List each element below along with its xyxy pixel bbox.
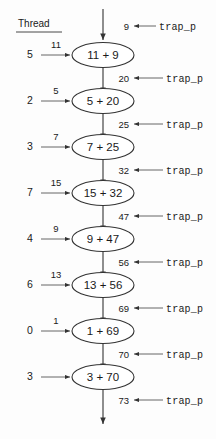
thread-id: 2 [27, 94, 33, 106]
thread-id: 5 [27, 48, 33, 60]
thread-input-value: 15 [51, 177, 62, 188]
scan-node-label: 9 + 47 [87, 233, 119, 245]
trap-label: trap_p [166, 120, 203, 131]
thread-column-header: Thread [18, 18, 50, 29]
thread-input-value: 9 [53, 223, 58, 234]
thread-input-value: 11 [51, 39, 61, 50]
node-output-value: 69 [118, 303, 129, 314]
node-output-value: 73 [118, 395, 129, 406]
trap-label: trap_p [166, 258, 203, 269]
thread-id: 3 [27, 370, 33, 382]
trap-label: trap_p [166, 396, 203, 407]
node-output-value: 70 [118, 349, 129, 360]
thread-id: 3 [27, 140, 33, 152]
trap-label: trap_p [166, 166, 203, 177]
pipeline-row: 0 1 1 + 69 70 trap_p [27, 315, 203, 370]
trap-label: trap_p [166, 212, 203, 223]
thread-id: 0 [27, 324, 33, 336]
trap-label: trap_p [166, 74, 203, 85]
thread-input-value: 13 [51, 269, 62, 280]
thread-input-value: 1 [53, 315, 58, 326]
scan-node-label: 11 + 9 [87, 49, 118, 61]
scan-node-label: 7 + 25 [87, 141, 119, 153]
node-output-value: 32 [118, 165, 129, 176]
scan-node-label: 5 + 20 [87, 95, 119, 107]
thread-input-value: 7 [53, 131, 58, 142]
scan-node-label: 1 + 69 [87, 325, 119, 337]
trap-label: trap_p [166, 350, 203, 361]
scan-node-label: 15 + 32 [84, 187, 123, 199]
top-inflow-trap-label: trap_p [159, 22, 196, 33]
pipeline-row: 3 3 + 70 73 trap_p [27, 365, 203, 425]
trap-label: trap_p [166, 304, 203, 315]
scan-node-label: 3 + 70 [87, 371, 119, 383]
node-output-value: 25 [118, 119, 129, 130]
thread-input-value: 5 [53, 85, 58, 96]
node-output-value: 56 [118, 257, 129, 268]
thread-id: 4 [27, 232, 33, 244]
thread-id: 6 [27, 278, 33, 290]
scan-node-label: 13 + 56 [84, 279, 123, 291]
top-inflow-value: 9 [124, 21, 129, 32]
diagram-canvas: Thread 9 trap_p 5 11 11 + 9 20 trap_p 2 … [0, 0, 216, 439]
scan-pipeline-diagram: Thread 9 trap_p 5 11 11 + 9 20 trap_p 2 … [0, 0, 216, 439]
thread-id: 7 [27, 186, 33, 198]
node-output-value: 20 [118, 73, 129, 84]
node-output-value: 47 [118, 211, 129, 222]
